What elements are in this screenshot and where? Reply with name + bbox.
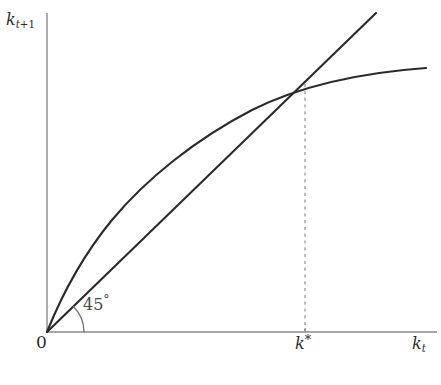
x-axis-label-base: k (412, 334, 422, 353)
steady-state-label: k* (295, 336, 311, 352)
y-axis-label: kt+1 (6, 12, 35, 28)
solow-diagram-svg (0, 0, 441, 385)
y-axis-label-plus-one: +1 (20, 18, 35, 30)
angle-label: 45° (83, 297, 110, 313)
figure-canvas: kt+1 kt 0 k* 45° (0, 0, 441, 385)
forty-five-degree-line (47, 13, 376, 332)
origin-label: 0 (36, 334, 47, 351)
steady-state-label-base: k (295, 334, 305, 353)
x-axis-label: kt (412, 336, 426, 352)
y-axis-label-base: k (6, 10, 16, 29)
degree-sign-icon: ° (103, 292, 109, 307)
angle-label-value: 45 (83, 295, 103, 314)
steady-state-label-star: * (305, 332, 311, 347)
x-axis-label-subscript: t (422, 342, 426, 354)
